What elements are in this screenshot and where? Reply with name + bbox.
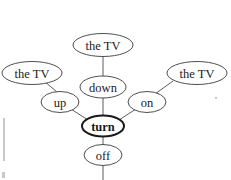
node-label-on: on xyxy=(141,96,154,110)
node-label-the-tv-right: the TV xyxy=(180,67,215,81)
node-off[interactable]: off xyxy=(84,145,122,166)
node-the-tv-right[interactable]: the TV xyxy=(167,62,227,85)
scan-artifact-group xyxy=(2,97,217,178)
dependency-tree-graph: the TV the TV the TV down up on turn xyxy=(0,0,231,180)
node-down[interactable]: down xyxy=(80,76,126,98)
node-label-up: up xyxy=(54,96,67,110)
right-speck-artifact xyxy=(215,97,217,99)
diagram-canvas: the TV the TV the TV down up on turn xyxy=(0,0,231,180)
edge-on-to-turn xyxy=(119,109,136,120)
node-label-turn: turn xyxy=(91,120,115,134)
node-the-tv-top[interactable]: the TV xyxy=(73,34,133,57)
node-on[interactable]: on xyxy=(128,92,166,113)
left-corner-mark-artifact xyxy=(2,172,5,178)
node-label-off: off xyxy=(96,149,111,163)
edge-the-tv-right-to-on xyxy=(155,81,173,94)
node-label-the-tv-left: the TV xyxy=(15,67,50,81)
node-label-the-tv-top: the TV xyxy=(86,39,121,53)
node-label-down: down xyxy=(89,81,118,95)
node-turn-root[interactable]: turn xyxy=(82,116,124,137)
edge-up-to-turn xyxy=(71,109,88,120)
left-margin-line-artifact xyxy=(3,118,5,161)
node-the-tv-left[interactable]: the TV xyxy=(2,62,62,85)
node-up[interactable]: up xyxy=(41,92,79,113)
